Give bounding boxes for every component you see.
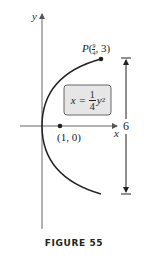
equation-exponent: 2	[102, 96, 106, 104]
point-p-name: P	[82, 42, 89, 54]
equation-numerator: 1	[89, 89, 96, 101]
figure-caption: FIGURE 55	[0, 238, 148, 248]
equation-denominator: 4	[90, 101, 95, 112]
y-axis-label: y	[32, 10, 37, 22]
x-axis-label: x	[114, 127, 119, 139]
equation-lhs: x =	[71, 94, 86, 106]
focus-point-dot	[58, 124, 63, 129]
equation-label: x = 1 4 y2	[66, 86, 110, 114]
point-p-dot	[99, 57, 104, 62]
focus-point-label: (1, 0)	[57, 131, 81, 143]
equation-fraction: 1 4	[89, 89, 96, 112]
dimension-label: 6	[122, 119, 130, 134]
point-p-rest: , 3)	[95, 42, 110, 54]
point-p-label: P(94, 3)	[82, 42, 110, 56]
